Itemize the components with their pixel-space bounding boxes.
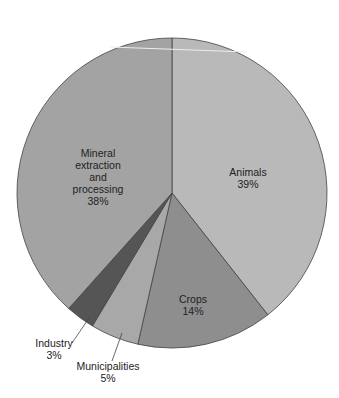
label-municipalities: Municipalities [76, 360, 139, 372]
label-industry-pct: 3% [46, 349, 61, 361]
label-crops-pct: 14% [182, 305, 203, 317]
label-crops: Crops [179, 293, 207, 305]
label-industry: Industry [35, 337, 73, 349]
leader-line-industry [72, 318, 89, 343]
label-municipalities-pct: 5% [100, 372, 115, 384]
label-mineral-1: Mineral [81, 147, 115, 159]
label-animals: Animals [229, 166, 266, 178]
label-mineral-4: processing [73, 183, 124, 195]
label-animals-pct: 39% [237, 178, 258, 190]
label-mineral-2: extraction [75, 159, 121, 171]
label-mineral-3: and [89, 171, 107, 183]
pie-chart: Mineral extraction and processing 38% An… [0, 0, 339, 398]
label-mineral-pct: 38% [87, 195, 108, 207]
